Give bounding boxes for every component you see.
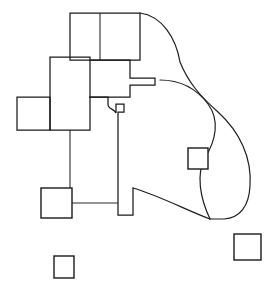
- line-drawing-figure: [0, 0, 277, 296]
- drawing-canvas: [0, 0, 277, 296]
- lower-left-square: [41, 188, 72, 218]
- detached-bottom-right-square: [234, 234, 261, 260]
- curve-intersecting-square: [188, 148, 208, 169]
- detached-bottom-square: [54, 256, 74, 278]
